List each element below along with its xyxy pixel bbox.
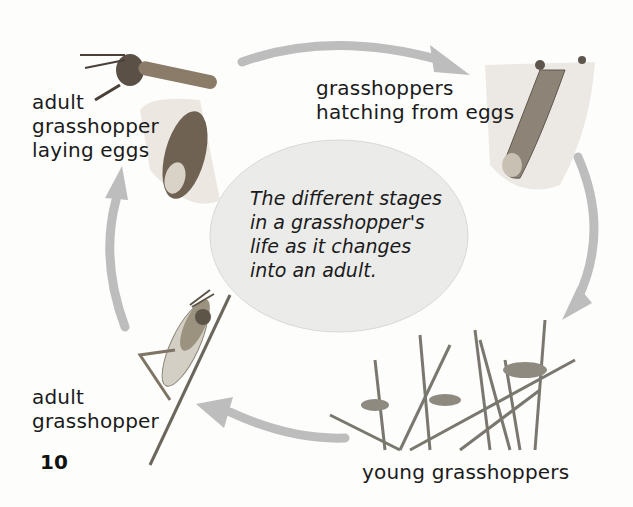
stage-label-adult: adult grasshopper bbox=[32, 385, 159, 433]
arrow-right-icon bbox=[562, 157, 594, 320]
stage-label-line: adult bbox=[32, 90, 159, 114]
stage-label-laying-eggs: adult grasshopper laying eggs bbox=[32, 90, 159, 162]
center-caption: The different stages in a grasshopper's … bbox=[250, 186, 460, 282]
stage-label-line: hatching from eggs bbox=[316, 100, 514, 124]
arrow-left-icon bbox=[105, 166, 128, 327]
caption-line: life as it changes bbox=[250, 234, 460, 258]
caption-line: in a grasshopper's bbox=[250, 210, 460, 234]
stage-label-line: grasshoppers bbox=[316, 76, 514, 100]
stage-label-line: grasshopper bbox=[32, 409, 159, 433]
page-number: 10 bbox=[40, 450, 68, 474]
arrow-bottom-icon bbox=[196, 397, 345, 438]
stage-label-line: laying eggs bbox=[32, 138, 159, 162]
stage-label-line: grasshopper bbox=[32, 114, 159, 138]
stage-label-line: young grasshoppers bbox=[362, 460, 569, 484]
arrow-top-icon bbox=[242, 45, 470, 75]
adult-grasshopper-on-stem-illustration bbox=[140, 290, 230, 465]
caption-line: into an adult. bbox=[250, 258, 460, 282]
stage-label-line: adult bbox=[32, 385, 159, 409]
caption-line: The different stages bbox=[250, 186, 460, 210]
stage-label-young: young grasshoppers bbox=[362, 460, 569, 484]
stage-label-hatching: grasshoppers hatching from eggs bbox=[316, 76, 514, 124]
young-grasshoppers-on-grass-illustration bbox=[330, 320, 575, 450]
